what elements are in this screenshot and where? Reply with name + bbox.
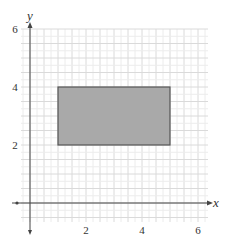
- x-tick-label: 6: [195, 224, 201, 236]
- y-tick-label: 6: [12, 23, 18, 35]
- coordinate-plane: 246246 x y: [0, 0, 238, 248]
- shaded-rectangle: [58, 87, 170, 145]
- x-tick-label: 4: [139, 224, 145, 236]
- x-tick-label: 2: [83, 224, 89, 236]
- y-tick-label: 4: [12, 81, 18, 93]
- x-axis-label: x: [212, 195, 219, 210]
- y-axis-bottom-arrow-icon: [28, 230, 32, 235]
- x-axis-left-arrow-icon: [15, 201, 18, 204]
- y-axis-label: y: [25, 8, 33, 23]
- y-tick-label: 2: [12, 139, 18, 151]
- shapes: [58, 87, 170, 145]
